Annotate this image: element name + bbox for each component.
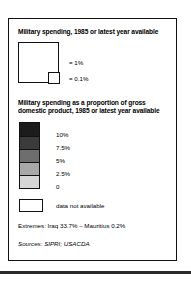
scale-label-2-5: 2.5% [56,170,70,177]
scale-label-5: 5% [56,157,65,164]
no-data-swatch [19,199,43,212]
scale-label-0: 0 [56,183,59,190]
scale-bar [19,122,40,189]
proportional-symbol-key: = 1% = 0.1% [18,42,168,92]
sources-note: Sources: SIPRI; USACDA [18,240,168,248]
legend-title-gdp-proportion: Military spending as a proportion of gro… [18,99,168,116]
scale-band-7-5 [20,136,39,149]
scale-label-7-5: 7.5% [56,144,70,151]
scale-label-10: 10% [56,131,68,138]
map-legend-panel: Military spending, 1985 or latest year a… [8,18,177,261]
scale-band-10 [20,123,39,136]
symbol-label-tenth-percent: = 0.1% [69,75,88,82]
scale-band-2-5 [20,162,39,175]
square-symbol-small [48,72,60,84]
extremes-note: Extremes: Iraq 33.7% – Mauritius 0.2% [18,222,168,230]
no-data-key: data not available [18,198,168,215]
scale-band-0 [20,175,39,188]
symbol-label-one-percent: = 1% [69,59,83,66]
scale-band-5 [20,149,39,162]
legend-title-spending: Military spending, 1985 or latest year a… [18,28,168,37]
bottom-divider [0,271,191,274]
no-data-label: data not available [56,202,105,209]
graduated-color-scale: 10% 7.5% 5% 2.5% 0 [18,122,168,194]
legend-content: Military spending, 1985 or latest year a… [18,28,168,248]
